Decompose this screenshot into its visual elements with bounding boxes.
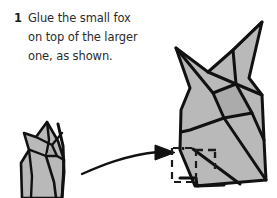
large-fox-crease-jaw-right xyxy=(252,113,264,140)
arrow-head-icon xyxy=(155,145,175,160)
small-fox-back-edge xyxy=(58,124,64,198)
large-fox-body xyxy=(176,22,266,186)
small-fox-muzzle-panel xyxy=(46,145,57,156)
small-fox-crease-chest xyxy=(46,156,56,198)
small-fox-body xyxy=(21,122,64,198)
diagram-canvas: 1 Glue the small fox on top of the large… xyxy=(0,0,277,198)
small-fox-crease-muzzle-right xyxy=(57,156,64,160)
small-fox-figure xyxy=(21,122,64,198)
step-number: 1 xyxy=(14,9,28,28)
instruction-text: Glue the small fox on top of the larger … xyxy=(28,9,138,66)
arrow-shaft xyxy=(82,152,158,174)
large-fox-figure xyxy=(172,22,266,186)
large-fox-crease-left-ear xyxy=(176,48,213,93)
large-fox-base-edge xyxy=(180,178,224,186)
small-fox-crease-head-left xyxy=(36,133,62,145)
large-fox-crease-jaw-left xyxy=(181,118,224,132)
placement-outline-guide xyxy=(172,147,220,182)
small-fox-crease-cheek xyxy=(29,150,46,156)
large-fox-head-panel xyxy=(213,84,252,118)
placement-outline-box xyxy=(172,148,196,182)
large-fox-crease-right-ear xyxy=(233,22,262,84)
large-fox-crease-leg xyxy=(193,149,240,184)
large-fox-crease-brow xyxy=(208,72,262,95)
placement-arrow xyxy=(82,145,175,174)
small-fox-crease-left-leg xyxy=(29,150,32,198)
small-fox-crease-head-center xyxy=(46,122,49,156)
large-fox-crease-chest xyxy=(224,118,266,180)
instruction-step: 1 Glue the small fox on top of the large… xyxy=(14,9,174,66)
